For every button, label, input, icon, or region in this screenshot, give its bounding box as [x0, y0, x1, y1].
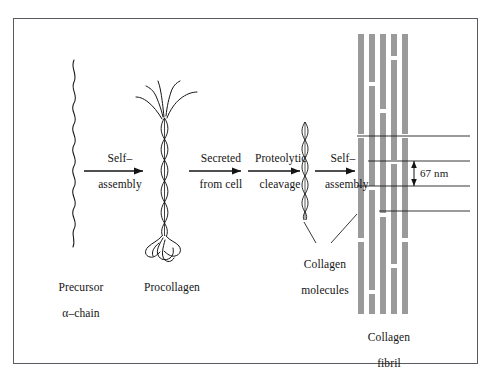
stage-label-collagen-fibril: Collagen fibril	[352, 318, 414, 381]
stage-label-collagen-molecules: Collagen molecules	[288, 245, 350, 310]
arrow-label-line1: Self–	[108, 152, 133, 164]
stage-label-line2: α–chain	[62, 307, 99, 319]
arrow-label-line2: from cell	[200, 178, 243, 190]
stage-label-line1: Precursor	[58, 281, 103, 293]
arrow-label-line2: assembly	[98, 178, 142, 190]
arrow-label-secreted-from-cell: Secreted from cell	[186, 139, 244, 204]
arrow-label-line2: assembly	[325, 178, 369, 190]
arrow-label-proteolytic-cleavage: Proteolytic cleavage	[243, 139, 305, 204]
stage-label-line1: Collagen	[304, 258, 346, 270]
arrow-label-line1: Secreted	[201, 152, 241, 164]
stage-label-line1: Procollagen	[144, 281, 200, 293]
arrow-label-line1: Self–	[331, 152, 356, 164]
arrow-label-self-assembly-2: Self– assembly	[313, 139, 361, 204]
stage-label-line2: molecules	[301, 284, 349, 296]
arrow-label-self-assembly-1: Self– assembly	[84, 139, 144, 204]
stage-label-procollagen: Procollagen	[126, 268, 206, 307]
collagen-assembly-figure: Self– assembly Secreted from cell Proteo…	[0, 0, 492, 381]
stage-label-line1: Collagen	[368, 331, 410, 343]
arrow-label-line1: Proteolytic	[255, 152, 307, 164]
stage-label-precursor-alpha-chain: Precursor α–chain	[38, 268, 112, 333]
periodicity-label: 67 nm	[420, 167, 448, 180]
arrow-label-line2: cleavage	[259, 178, 300, 190]
stage-label-line2: fibril	[377, 357, 401, 369]
